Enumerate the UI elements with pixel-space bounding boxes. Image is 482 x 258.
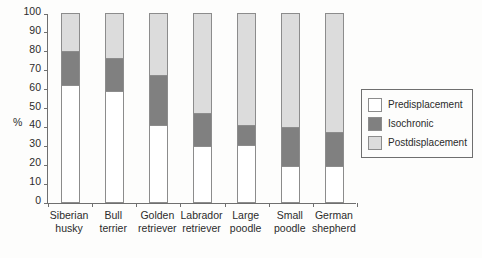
bar-segment-postdisplacement[interactable]: [237, 13, 256, 126]
bar-group[interactable]: [149, 14, 168, 203]
x-axis-label: Largepoodle: [224, 209, 268, 234]
bar-group[interactable]: [193, 14, 212, 203]
stacked-bar[interactable]: [105, 14, 124, 203]
bar-segment-isochronic[interactable]: [149, 75, 168, 125]
bar-segment-isochronic[interactable]: [281, 127, 300, 167]
x-axis-label-line: shepherd: [312, 222, 356, 235]
y-tick-label: 100: [23, 6, 41, 17]
x-axis-labels: SiberianhuskyBullterrierGoldenretrieverL…: [47, 209, 356, 249]
x-tick-mark: [136, 203, 137, 207]
x-tick-mark: [48, 203, 49, 207]
y-tick-label: 90: [29, 25, 41, 36]
y-tick-label: 80: [29, 44, 41, 55]
legend-item-postdisplacement: Postdisplacement: [368, 134, 467, 151]
bar-segment-isochronic[interactable]: [193, 113, 212, 147]
stacked-bar[interactable]: [281, 14, 300, 203]
x-axis-label-line: retriever: [135, 222, 179, 235]
bar-segment-isochronic[interactable]: [105, 58, 124, 92]
stacked-bar[interactable]: [193, 14, 212, 203]
bar-segment-predisplacement[interactable]: [61, 85, 80, 203]
x-tick-mark: [92, 203, 93, 207]
plot-area: 0102030405060708090100: [47, 14, 356, 204]
bar-segment-postdisplacement[interactable]: [105, 13, 124, 59]
legend-swatch-postdisplacement: [368, 136, 382, 150]
y-tick-label: 10: [29, 176, 41, 187]
bar-segment-postdisplacement[interactable]: [193, 13, 212, 114]
x-axis-label: Siberianhusky: [47, 209, 91, 234]
legend-label-postdisplacement: Postdisplacement: [388, 138, 467, 148]
x-axis-label-line: German: [312, 209, 356, 222]
bar-segment-postdisplacement[interactable]: [149, 13, 168, 76]
x-axis-label-line: terrier: [91, 222, 135, 235]
x-axis-label-line: husky: [47, 222, 91, 235]
x-axis-label-line: retriever: [179, 222, 223, 235]
x-axis-label: Smallpoodle: [268, 209, 312, 234]
bar-segment-predisplacement[interactable]: [149, 125, 168, 203]
y-axis-title: %: [13, 117, 22, 128]
figure-panel: % 0102030405060708090100 SiberianhuskyBu…: [0, 0, 482, 258]
legend-item-predisplacement: Predisplacement: [368, 96, 467, 113]
legend-item-isochronic: Isochronic: [368, 115, 467, 132]
x-axis-label: Germanshepherd: [312, 209, 356, 234]
legend-swatch-isochronic: [368, 117, 382, 131]
bar-segment-isochronic[interactable]: [237, 125, 256, 147]
bar-segment-postdisplacement[interactable]: [61, 13, 80, 52]
x-tick-mark: [225, 203, 226, 207]
x-axis-label-line: Small: [268, 209, 312, 222]
stacked-bar[interactable]: [61, 14, 80, 203]
x-tick-mark: [313, 203, 314, 207]
y-tick-label: 30: [29, 138, 41, 149]
y-tick-label: 0: [35, 195, 41, 206]
x-axis-label-line: Large: [224, 209, 268, 222]
x-tick-mark: [180, 203, 181, 207]
x-axis-label: Bullterrier: [91, 209, 135, 234]
y-tick-label: 20: [29, 157, 41, 168]
bar-group[interactable]: [281, 14, 300, 203]
x-tick-mark: [269, 203, 270, 207]
bar-segment-isochronic[interactable]: [325, 132, 344, 167]
stacked-bar[interactable]: [237, 14, 256, 203]
bar-segment-isochronic[interactable]: [61, 51, 80, 86]
bar-group[interactable]: [105, 14, 124, 203]
x-axis-label-line: Siberian: [47, 209, 91, 222]
bar-segment-postdisplacement[interactable]: [281, 13, 300, 128]
x-axis-label-line: poodle: [224, 222, 268, 235]
x-axis-label: Goldenretriever: [135, 209, 179, 234]
y-tick-label: 70: [29, 63, 41, 74]
bar-segment-predisplacement[interactable]: [105, 91, 124, 203]
y-tick-label: 50: [29, 101, 41, 112]
x-tick-mark: [357, 203, 358, 207]
bar-segment-predisplacement[interactable]: [281, 166, 300, 203]
bar-series-container: [48, 14, 356, 203]
x-axis-label-line: Labrador: [179, 209, 223, 222]
bar-segment-predisplacement[interactable]: [237, 145, 256, 203]
bar-segment-predisplacement[interactable]: [193, 146, 212, 203]
x-axis-label-line: poodle: [268, 222, 312, 235]
bar-group[interactable]: [237, 14, 256, 203]
legend-swatch-predisplacement: [368, 98, 382, 112]
x-axis-label-line: Golden: [135, 209, 179, 222]
y-tick-label: 60: [29, 82, 41, 93]
legend-label-isochronic: Isochronic: [388, 119, 434, 129]
stacked-bar[interactable]: [149, 14, 168, 203]
bar-group[interactable]: [61, 14, 80, 203]
bar-group[interactable]: [325, 14, 344, 203]
x-axis-label: Labradorretriever: [179, 209, 223, 234]
x-axis-label-line: Bull: [91, 209, 135, 222]
chart-legend: Predisplacement Isochronic Postdisplacem…: [361, 89, 473, 158]
y-tick-label: 40: [29, 119, 41, 130]
stacked-bar[interactable]: [325, 14, 344, 203]
legend-label-predisplacement: Predisplacement: [388, 100, 462, 110]
bar-segment-postdisplacement[interactable]: [325, 13, 344, 133]
bar-segment-predisplacement[interactable]: [325, 166, 344, 203]
